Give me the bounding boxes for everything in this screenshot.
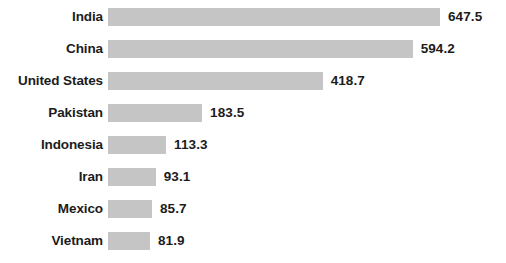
bar <box>108 72 323 90</box>
bar <box>108 200 152 218</box>
category-label: Vietnam <box>51 234 103 248</box>
bar-value-label: 647.5 <box>448 10 482 24</box>
bar-fill <box>108 8 440 26</box>
bar-fill <box>108 136 166 154</box>
bar-row: Vietnam81.9 <box>0 232 506 250</box>
bar-fill <box>108 200 152 218</box>
bar-row: Indonesia113.3 <box>0 136 506 154</box>
bar-value-label: 594.2 <box>421 42 455 56</box>
bar-fill <box>108 72 323 90</box>
bar-fill <box>108 40 413 58</box>
category-label: United States <box>18 74 103 88</box>
bar <box>108 104 202 122</box>
bar <box>108 232 150 250</box>
bar-row: Pakistan183.5 <box>0 104 506 122</box>
bar-value-label: 85.7 <box>160 202 187 216</box>
bar-value-label: 93.1 <box>164 170 191 184</box>
plot-area: India647.5China594.2United States418.7Pa… <box>0 0 506 263</box>
bar <box>108 136 166 154</box>
bar-value-label: 183.5 <box>210 106 244 120</box>
category-label: India <box>72 10 103 24</box>
bar-value-label: 81.9 <box>158 234 185 248</box>
category-label: Indonesia <box>41 138 103 152</box>
bar-value-label: 113.3 <box>174 138 208 152</box>
bar-row: United States418.7 <box>0 72 506 90</box>
bar-row: Iran93.1 <box>0 168 506 186</box>
bar-fill <box>108 104 202 122</box>
category-label: Iran <box>79 170 103 184</box>
bar-value-label: 418.7 <box>331 74 365 88</box>
category-label: Mexico <box>58 202 103 216</box>
bar <box>108 8 440 26</box>
bar-chart: India647.5China594.2United States418.7Pa… <box>0 0 506 263</box>
category-label: China <box>66 42 103 56</box>
bar-fill <box>108 168 156 186</box>
bar-row: India647.5 <box>0 8 506 26</box>
bar-row: China594.2 <box>0 40 506 58</box>
bar-row: Mexico85.7 <box>0 200 506 218</box>
bar <box>108 168 156 186</box>
bar <box>108 40 413 58</box>
category-label: Pakistan <box>48 106 103 120</box>
bar-fill <box>108 232 150 250</box>
